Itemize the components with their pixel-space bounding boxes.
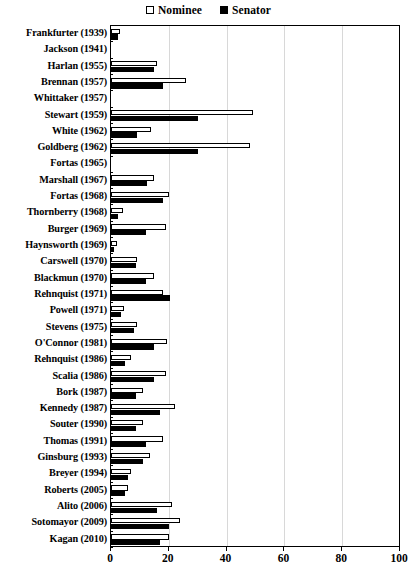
bar-nominee [111,534,169,539]
bar-senator [111,279,146,284]
x-tick-label: 60 [278,552,290,564]
category-tick [110,351,113,352]
bar-senator [111,410,160,415]
bar-nominee [111,273,154,278]
bar-senator [111,540,160,545]
category-tick [110,384,113,385]
bar-senator [111,475,128,480]
bar-senator [111,198,163,203]
category-label: Rehnquist (1986) [0,354,107,364]
category-label: Rehnquist (1971) [0,289,107,299]
x-tick [283,547,284,551]
category-tick [110,204,113,205]
bar-senator [111,508,157,513]
bar-nominee [111,420,143,425]
category-label: Whittaker (1957) [0,93,107,103]
category-tick [110,156,113,157]
bar-nominee [111,518,180,523]
category-label: Thomas (1991) [0,436,107,446]
category-tick [110,547,113,548]
bar-senator [111,83,163,88]
legend-label-nominee: Nominee [158,4,202,16]
bar-senator [111,491,125,496]
bar-nominee [111,485,128,490]
category-tick [110,253,113,254]
chart-container: Nominee Senator Frankfurter (1939)Jackso… [0,0,417,570]
legend-entry-senator: Senator [220,4,271,16]
bar-senator [111,263,136,268]
category-tick [110,123,113,124]
open-square-icon [146,6,154,14]
bar-nominee [111,339,167,344]
category-label: Alito (2006) [0,501,107,511]
x-tick-label: 0 [107,552,113,564]
category-axis-labels: Frankfurter (1939)Jackson (1941)Harlan (… [0,25,107,547]
x-axis-tick-labels: 020406080100 [0,552,417,570]
category-tick [110,286,113,287]
bar-senator [111,459,143,464]
bar-senator [111,132,137,137]
legend-entry-nominee: Nominee [146,4,202,16]
bar-nominee [111,371,166,376]
bar-nominee [111,436,163,441]
legend-label-senator: Senator [232,4,271,16]
bar-senator [111,295,170,300]
bar-senator [111,67,154,72]
bar-senator [111,393,136,398]
bar-nominee [111,355,131,360]
bar-nominee [111,192,169,197]
category-tick [110,107,113,108]
category-label: Kennedy (1987) [0,403,107,413]
category-tick [110,237,113,238]
bar-nominee [111,306,124,311]
gridline [284,26,285,546]
bar-senator [111,524,169,529]
category-label: Roberts (2005) [0,485,107,495]
bar-nominee [111,404,175,409]
category-label: Blackmun (1970) [0,273,107,283]
category-tick [110,449,113,450]
category-tick [110,368,113,369]
category-label: Thornberry (1968) [0,207,107,217]
bar-nominee [111,453,150,458]
plot-area [110,25,400,547]
bar-nominee [111,224,166,229]
bar-senator [111,230,146,235]
bar-nominee [111,388,143,393]
category-label: Breyer (1994) [0,468,107,478]
category-label: Powell (1971) [0,305,107,315]
category-tick [110,417,113,418]
category-label: Ginsburg (1993) [0,452,107,462]
x-tick-label: 80 [335,552,347,564]
bar-nominee [111,143,250,148]
category-label: Haynsworth (1969) [0,240,107,250]
category-tick [110,221,113,222]
x-tick [341,547,342,551]
category-label: O'Connor (1981) [0,338,107,348]
bar-nominee [111,208,123,213]
category-tick [110,139,113,140]
filled-square-icon [220,6,228,14]
gridline [227,26,228,546]
category-label: Jackson (1941) [0,44,107,54]
category-tick [110,433,113,434]
bar-nominee [111,322,137,327]
category-tick [110,172,113,173]
gridline [342,26,343,546]
bar-senator [111,247,114,252]
category-label: Kagan (2010) [0,534,107,544]
x-tick-label: 40 [220,552,232,564]
bar-nominee [111,61,157,66]
category-tick [110,400,113,401]
category-label: Burger (1969) [0,224,107,234]
category-tick [110,41,113,42]
chart-legend: Nominee Senator [0,0,417,20]
category-tick [110,335,113,336]
bar-nominee [111,78,186,83]
category-label: Stewart (1959) [0,110,107,120]
category-label: Carswell (1970) [0,256,107,266]
bar-senator [111,34,118,39]
bar-nominee [111,469,131,474]
category-tick [110,514,113,515]
bar-senator [111,312,121,317]
